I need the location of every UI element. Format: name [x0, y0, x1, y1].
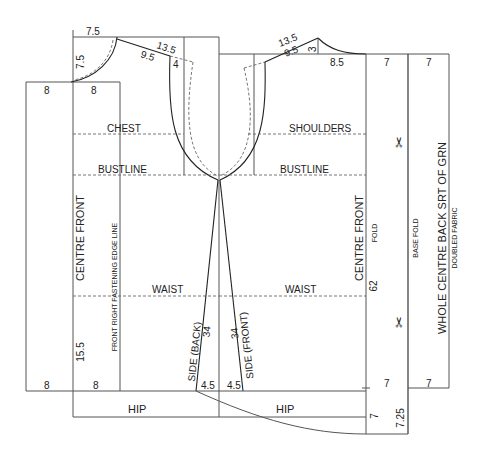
side-front-seam	[220, 180, 243, 391]
label-centre-front-left: CENTRE FRONT	[74, 195, 86, 281]
scissors-icon-bottom: ✂	[391, 316, 407, 328]
label-base-fold: BASE FOLD	[412, 218, 419, 257]
pattern-diagram: 7.5 7.5 13.5 9.5 4 8 8 CHEST BUSTLINE WA…	[0, 0, 480, 459]
front-armhole-dashed	[189, 62, 218, 176]
label-centre-length: 62	[368, 280, 379, 292]
label-chest: CHEST	[107, 123, 141, 134]
label-fold: FOLD	[371, 224, 378, 243]
label-hem-drop-b: 7.25	[395, 408, 406, 428]
label-fold-top-b: 7	[426, 57, 432, 68]
label-ext-top-left: 8	[44, 85, 50, 96]
label-bustline-left: BUSTLINE	[98, 164, 147, 175]
front-armhole-curve	[170, 56, 218, 180]
label-neck-depth-front: 7.5	[75, 55, 86, 69]
side-back-seam	[196, 180, 218, 391]
label-shoulder-drop-front: 4	[173, 59, 179, 70]
label-centre-front-right: CENTRE FRONT	[353, 195, 365, 281]
label-neck-width-back: 8.5	[330, 57, 344, 68]
label-shoulder-drop-back: 3	[307, 46, 318, 52]
label-waist-right: WAIST	[285, 284, 316, 295]
label-hem-flare-back: 4.5	[201, 380, 215, 391]
label-ext-top-right: 8	[91, 85, 97, 96]
label-whole-centre-back: WHOLE CENTRE BACK SRT OF GRN	[436, 142, 448, 334]
label-ext-bottom-left: 8	[44, 380, 50, 391]
label-fold-bottom-b: 7	[426, 378, 432, 389]
label-side-back-len: 34	[200, 325, 212, 338]
label-bustline-right: BUSTLINE	[280, 164, 329, 175]
back-armhole-curve	[220, 62, 265, 180]
label-hip-left: HIP	[128, 403, 146, 415]
label-front-hem-depth: 15.5	[75, 342, 86, 362]
label-shoulders: SHOULDERS	[289, 123, 352, 134]
label-shoulder-front: 13.5	[155, 39, 177, 56]
label-doubled-fabric: DOUBLED FABRIC	[451, 207, 458, 268]
label-fastening-edge: FRONT RIGHT FASTENING EDGE LINE	[111, 222, 118, 351]
label-neck-width-front: 7.5	[86, 26, 100, 37]
label-hem-drop-a: 7	[369, 413, 380, 419]
label-waist-left: WAIST	[152, 284, 183, 295]
back-neckline-curve	[318, 38, 366, 54]
label-fold-bottom-a: 7	[384, 378, 390, 389]
label-fold-top-a: 7	[384, 57, 390, 68]
scissors-icon-top: ✂	[391, 136, 407, 148]
label-hem-flare-front: 4.5	[227, 380, 241, 391]
label-hip-right: HIP	[276, 403, 294, 415]
label-ext-bottom-right: 8	[93, 380, 99, 391]
